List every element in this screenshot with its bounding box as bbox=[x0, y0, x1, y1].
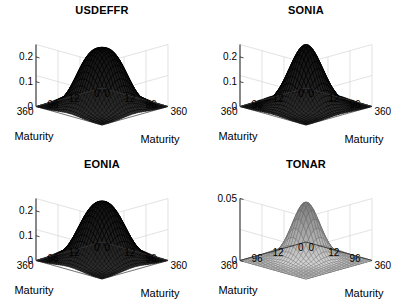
surface-mesh bbox=[36, 200, 168, 278]
surface-svg: 00.10.23609612001296360MaturityMaturity bbox=[0, 154, 204, 307]
z-tick-label: 0.2 bbox=[19, 205, 33, 216]
surface-mesh bbox=[240, 201, 372, 278]
surface-svg: 00.10.23609612001296360MaturityMaturity bbox=[0, 0, 204, 154]
x-tick-label: 12 bbox=[328, 93, 340, 104]
x-tick-label: 96 bbox=[349, 99, 361, 110]
y-tick-label: 96 bbox=[47, 99, 59, 110]
panel-tonar: TONAR 00.053609612001296360MaturityMatur… bbox=[204, 154, 408, 307]
surface-plot-canvas: 00.10.23609612001296360MaturityMaturity bbox=[204, 0, 408, 154]
x-axis-label: Maturity bbox=[140, 287, 180, 299]
surface-plot-canvas: 00.10.23609612001296360MaturityMaturity bbox=[0, 154, 204, 307]
y-tick-label: 0 bbox=[94, 88, 100, 99]
x-tick-label: 0 bbox=[309, 241, 315, 252]
x-tick-label: 360 bbox=[171, 260, 188, 271]
y-axis-label: Maturity bbox=[218, 284, 258, 296]
x-tick-label: 360 bbox=[171, 106, 188, 117]
x-tick-label: 360 bbox=[375, 106, 392, 117]
x-tick-label: 96 bbox=[145, 99, 157, 110]
panel-eonia: EONIA 00.10.23609612001296360MaturityMat… bbox=[0, 154, 204, 307]
x-tick-label: 360 bbox=[375, 260, 392, 271]
surface-mesh bbox=[36, 47, 168, 125]
z-tick-label: 0.1 bbox=[223, 76, 237, 87]
x-tick-label: 12 bbox=[124, 247, 136, 258]
y-tick-label: 12 bbox=[69, 247, 81, 258]
y-axis-label: Maturity bbox=[14, 284, 54, 296]
x-tick-label: 12 bbox=[124, 93, 136, 104]
x-tick-label: 96 bbox=[349, 252, 361, 263]
surface-svg: 00.10.23609612001296360MaturityMaturity bbox=[204, 0, 408, 154]
y-tick-label: 360 bbox=[17, 106, 34, 117]
y-tick-label: 12 bbox=[273, 247, 285, 258]
z-tick-label: 0.05 bbox=[218, 193, 238, 204]
surface-plot-figure: USDEFFR 00.10.23609612001296360MaturityM… bbox=[0, 0, 408, 307]
x-tick-label: 96 bbox=[145, 252, 157, 263]
surface-svg: 00.053609612001296360MaturityMaturity bbox=[204, 154, 408, 307]
panel-sonia: SONIA 00.10.23609612001296360MaturityMat… bbox=[204, 0, 408, 154]
z-tick-label: 0.1 bbox=[19, 76, 33, 87]
y-tick-label: 360 bbox=[221, 106, 238, 117]
z-tick-label: 0.2 bbox=[223, 51, 237, 62]
y-tick-label: 96 bbox=[47, 252, 59, 263]
x-axis-label: Maturity bbox=[344, 133, 384, 145]
y-axis-label: Maturity bbox=[218, 130, 258, 142]
surface-plot-canvas: 00.053609612001296360MaturityMaturity bbox=[204, 154, 408, 307]
y-tick-label: 0 bbox=[298, 88, 304, 99]
x-tick-label: 12 bbox=[328, 247, 340, 258]
x-tick-label: 0 bbox=[309, 88, 315, 99]
y-axis-label: Maturity bbox=[14, 130, 54, 142]
y-tick-label: 12 bbox=[273, 93, 285, 104]
z-tick-label: 0.2 bbox=[19, 51, 33, 62]
y-tick-label: 360 bbox=[221, 260, 238, 271]
x-tick-label: 0 bbox=[105, 88, 111, 99]
y-tick-label: 0 bbox=[298, 241, 304, 252]
y-tick-label: 96 bbox=[251, 99, 263, 110]
surface-mesh bbox=[240, 45, 372, 125]
panel-usdeffr: USDEFFR 00.10.23609612001296360MaturityM… bbox=[0, 0, 204, 154]
x-tick-label: 0 bbox=[105, 241, 111, 252]
y-tick-label: 360 bbox=[17, 260, 34, 271]
y-tick-label: 12 bbox=[69, 93, 81, 104]
surface-plot-canvas: 00.10.23609612001296360MaturityMaturity bbox=[0, 0, 204, 154]
y-tick-label: 0 bbox=[94, 241, 100, 252]
x-axis-label: Maturity bbox=[140, 133, 180, 145]
x-axis-label: Maturity bbox=[344, 287, 384, 299]
z-tick-label: 0.1 bbox=[19, 230, 33, 241]
y-tick-label: 96 bbox=[251, 252, 263, 263]
